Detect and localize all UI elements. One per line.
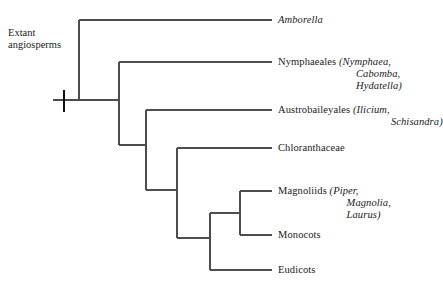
tip-label-eudicots: Eudicots — [278, 264, 316, 276]
tip-genera-nymphaeales: (Nymphaea,Cabomba,Hydatella) — [339, 56, 402, 91]
tip-name-chloranthaceae: Chloranthaceae — [278, 142, 345, 153]
genus-line: Cabomba, — [339, 68, 402, 80]
tip-genera-austrobaileyales: (Ilicium,Schisandra) — [353, 104, 443, 128]
tip-name-magnoliids: Magnoliids — [278, 185, 327, 196]
tip-label-chloranthaceae: Chloranthaceae — [278, 142, 345, 154]
tip-label-amborella: Amborella — [278, 14, 323, 26]
genus-line: Magnolia, — [330, 197, 391, 209]
tip-label-magnoliids: Magnoliids (Piper,Magnolia,Laurus) — [278, 185, 391, 220]
genus-line: (Nymphaea, — [339, 56, 402, 68]
tip-name-eudicots: Eudicots — [278, 264, 316, 275]
tip-genera-magnoliids: (Piper,Magnolia,Laurus) — [330, 185, 391, 220]
root-caption-line-1: Extant — [8, 27, 74, 39]
tip-name-nymphaeales: Nymphaeales — [278, 56, 336, 67]
tip-label-monocots: Monocots — [278, 229, 321, 241]
genus-line: Hydatella) — [339, 80, 402, 92]
root-caption-line-2: angiosperms — [8, 39, 74, 51]
tip-name-monocots: Monocots — [278, 229, 321, 240]
tip-label-austrobaileyales: Austrobaileyales (Ilicium,Schisandra) — [278, 104, 443, 128]
genus-line: Schisandra) — [353, 116, 443, 128]
genus-line: Laurus) — [330, 209, 391, 221]
root-caption: Extant angiosperms — [8, 27, 74, 52]
tip-label-nymphaeales: Nymphaeales (Nymphaea,Cabomba,Hydatella) — [278, 56, 402, 91]
tip-name-amborella: Amborella — [278, 14, 323, 25]
genus-line: (Piper, — [330, 185, 391, 197]
genus-line: (Ilicium, — [353, 104, 443, 116]
tip-name-austrobaileyales: Austrobaileyales — [278, 104, 350, 115]
